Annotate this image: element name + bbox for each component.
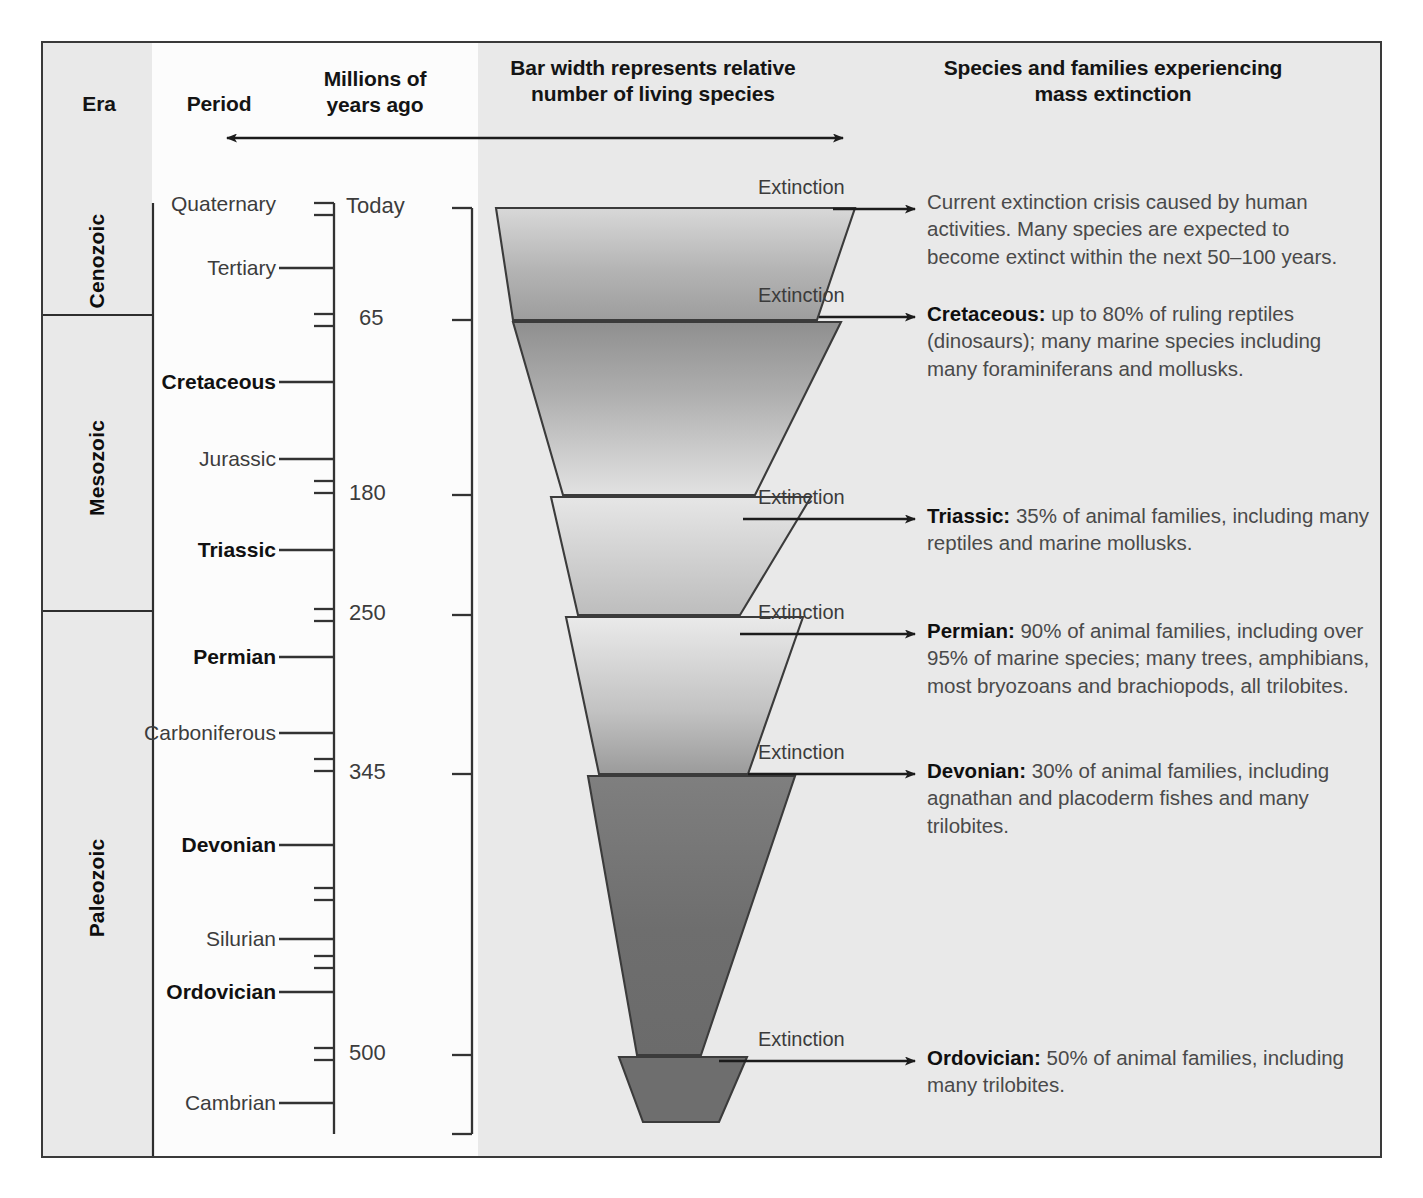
- extinction-description-triassic: Triassic: 35% of animal families, includ…: [927, 502, 1379, 557]
- extinction-label-ordovician: Extinction: [758, 1028, 845, 1051]
- column-header-species-families: Species and families experiencing mass e…: [883, 55, 1343, 106]
- extinction-desc-body-recent: Current extinction crisis caused by huma…: [927, 190, 1337, 268]
- era-label-mesozoic: Mesozoic: [85, 408, 109, 528]
- period-label-silurian: Silurian: [206, 927, 276, 951]
- extinction-label-recent: Extinction: [758, 176, 845, 199]
- funnel-segment-cambrian-base: [619, 1057, 747, 1122]
- period-label-cambrian: Cambrian: [185, 1091, 276, 1115]
- extinction-description-recent: Current extinction crisis caused by huma…: [927, 188, 1347, 270]
- column-header-millions-of-years-ago: Millions of years ago: [305, 66, 445, 117]
- extinction-label-devonian: Extinction: [758, 741, 845, 764]
- period-label-carboniferous: Carboniferous: [144, 721, 276, 745]
- scale-label-345: 345: [349, 759, 386, 785]
- scale-label-250: 250: [349, 600, 386, 626]
- extinction-description-ordovician: Ordovician: 50% of animal families, incl…: [927, 1044, 1367, 1099]
- column-header-period: Period: [153, 91, 285, 117]
- era-label-cenozoic: Cenozoic: [85, 201, 109, 321]
- extinction-label-cretaceous: Extinction: [758, 284, 845, 307]
- period-label-jurassic: Jurassic: [199, 447, 276, 471]
- era-column-rules: [43, 203, 153, 1156]
- extinction-desc-title-ordovician: Ordovician:: [927, 1046, 1041, 1069]
- scale-label-500: 500: [349, 1040, 386, 1066]
- period-label-quaternary: Quaternary: [171, 192, 276, 216]
- geologic-timescale-figure: Era Period Millions of years ago Bar wid…: [41, 41, 1382, 1158]
- scale-label-180: 180: [349, 480, 386, 506]
- period-label-permian: Permian: [193, 645, 276, 669]
- extinction-desc-title-triassic: Triassic:: [927, 504, 1010, 527]
- numeric-scale-bracket: [452, 208, 472, 1134]
- era-label-paleozoic: Paleozoic: [85, 828, 109, 948]
- period-label-ordovician: Ordovician: [166, 980, 276, 1004]
- extinction-label-triassic: Extinction: [758, 486, 845, 509]
- funnel-segment-triassic: [551, 497, 811, 615]
- extinction-description-cretaceous: Cretaceous: up to 80% of ruling reptiles…: [927, 300, 1327, 382]
- extinction-desc-title-devonian: Devonian:: [927, 759, 1026, 782]
- scale-label-today: Today: [346, 193, 405, 219]
- scale-label-65: 65: [359, 305, 383, 331]
- funnel-segment-mesozoic-upper: [513, 322, 841, 495]
- period-label-devonian: Devonian: [181, 833, 276, 857]
- extinction-desc-title-cretaceous: Cretaceous:: [927, 302, 1046, 325]
- extinction-label-permian: Extinction: [758, 601, 845, 624]
- column-header-era: Era: [49, 91, 149, 117]
- extinction-desc-title-permian: Permian:: [927, 619, 1015, 642]
- extinction-description-permian: Permian: 90% of animal families, includi…: [927, 617, 1379, 699]
- period-label-tertiary: Tertiary: [207, 256, 276, 280]
- funnel-segment-paleozoic-lower: [588, 776, 795, 1055]
- period-label-cretaceous: Cretaceous: [162, 370, 276, 394]
- species-diversity-funnel: [496, 208, 855, 1122]
- period-label-triassic: Triassic: [198, 538, 276, 562]
- geologic-timeline-axis: [279, 203, 334, 1134]
- column-header-bar-width: Bar width represents relative number of …: [443, 55, 863, 106]
- extinction-description-devonian: Devonian: 30% of animal families, includ…: [927, 757, 1357, 839]
